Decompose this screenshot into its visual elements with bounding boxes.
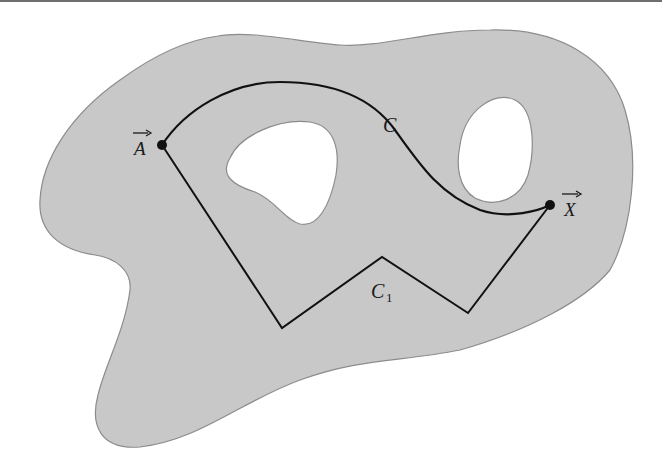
svg-text:A: A	[132, 138, 146, 159]
svg-text:C: C	[371, 280, 385, 302]
svg-text:1: 1	[386, 290, 393, 305]
point-x-dot	[545, 200, 555, 210]
label-c: C	[383, 114, 397, 136]
point-a-dot	[157, 140, 167, 150]
svg-text:X: X	[563, 199, 577, 220]
region-diagram: A X C C 1	[0, 0, 662, 470]
connected-region	[40, 30, 633, 447]
